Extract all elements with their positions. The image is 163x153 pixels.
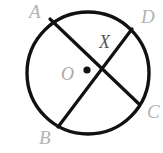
vertex-label-c: C: [147, 102, 160, 121]
vertex-label-b: B: [39, 128, 51, 147]
chord-ac: [50, 19, 139, 104]
geometry-figure: A D C B X O: [0, 0, 163, 153]
vertex-label-d: D: [141, 7, 155, 26]
circle-diagram-svg: [0, 0, 163, 153]
center-dot: [83, 66, 90, 73]
center-label-o: O: [61, 65, 74, 83]
vertex-label-a: A: [29, 2, 41, 21]
intersection-label-x: X: [99, 33, 110, 51]
